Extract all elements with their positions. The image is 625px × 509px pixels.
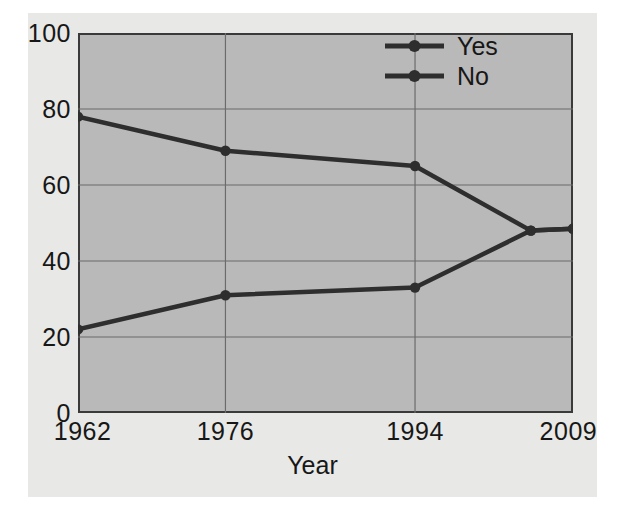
series-line-yes — [78, 117, 573, 231]
data-point-marker — [410, 282, 420, 292]
legend-line-marker-icon — [383, 65, 446, 87]
x-axis-tick-label: 1962 — [54, 417, 112, 446]
plot-area: 020406080100 1962197619942009 — [78, 33, 573, 413]
data-point-marker — [78, 324, 83, 334]
y-axis-tick-label: 20 — [42, 323, 71, 352]
data-point-marker — [526, 225, 536, 235]
data-point-marker — [568, 224, 573, 234]
gridlines — [78, 33, 573, 413]
legend-item-yes[interactable]: Yes — [383, 31, 498, 61]
legend-label-no: No — [457, 64, 489, 89]
data-point-marker — [78, 111, 83, 121]
chart-figure: 020406080100 1962197619942009 Year Yes N… — [28, 13, 597, 497]
chart-canvas — [78, 33, 573, 413]
y-axis-tick-label: 40 — [42, 247, 71, 276]
data-point-marker — [410, 161, 420, 171]
legend-line-marker-icon — [383, 35, 446, 57]
y-axis-tick-label: 60 — [42, 171, 71, 200]
series-line-no — [78, 229, 573, 330]
chart-legend: Yes No — [383, 31, 498, 91]
x-axis-tick-label: 1994 — [386, 417, 444, 446]
x-axis-tick-label: 2009 — [540, 417, 598, 446]
data-point-marker — [220, 290, 230, 300]
legend-label-yes: Yes — [457, 34, 498, 59]
x-axis-tick-label: 1976 — [197, 417, 255, 446]
x-axis-title: Year — [28, 451, 597, 480]
data-point-marker — [220, 146, 230, 156]
legend-item-no[interactable]: No — [383, 61, 498, 91]
y-axis-tick-label: 100 — [28, 19, 71, 48]
y-axis-tick-label: 80 — [42, 95, 71, 124]
series-layer — [78, 111, 573, 334]
